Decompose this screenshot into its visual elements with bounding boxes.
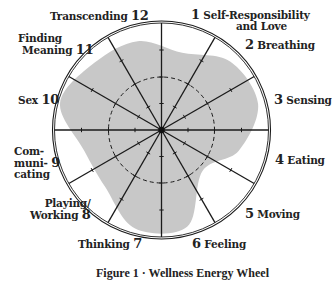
- segment-number-4: 4: [275, 152, 284, 167]
- segment-label-5: 5 Moving: [245, 208, 300, 220]
- figure-caption: Figure 1 · Wellness Energy Wheel: [96, 266, 269, 281]
- segment-number-11: 11: [76, 42, 94, 57]
- segment-label-1: 1 Self-Responsibility and Love: [191, 9, 310, 32]
- segment-text-5: Moving: [257, 208, 300, 220]
- segment-text-10: Sex: [18, 94, 38, 106]
- segment-text-12: Transcending: [50, 10, 128, 22]
- segment-label-6: 6 Feeling: [192, 238, 246, 250]
- segment-text-8b: Working: [24, 209, 78, 221]
- segment-label-12: Transcending 12: [50, 10, 149, 22]
- segment-number-2: 2: [245, 37, 254, 52]
- segment-label-10: Sex 10: [18, 94, 59, 106]
- segment-label-7: Thinking 7: [78, 238, 142, 250]
- segment-number-7: 7: [133, 236, 142, 251]
- segment-number-9: 9: [51, 155, 60, 170]
- segment-text-11a: Finding: [18, 32, 62, 44]
- segment-number-6: 6: [192, 236, 201, 251]
- segment-label-4: 4 Eating: [275, 154, 325, 166]
- segment-number-8: 8: [82, 207, 91, 222]
- segment-label-8: Playing/ Working 8: [24, 198, 91, 221]
- segment-text-6: Feeling: [204, 238, 246, 250]
- segment-text-11b: Meaning: [18, 44, 72, 56]
- segment-label-3: 3 Sensing: [274, 94, 332, 106]
- segment-text-3: Sensing: [286, 94, 331, 106]
- segment-text-9c: cating: [14, 168, 50, 180]
- segment-text-7: Thinking: [78, 238, 130, 250]
- segment-label-9: Com- muni- 9 cating: [14, 146, 60, 180]
- segment-text-2: Breathing: [257, 39, 315, 51]
- segment-label-2: 2 Breathing: [245, 39, 315, 51]
- segment-number-10: 10: [41, 92, 59, 107]
- segment-text-4: Eating: [287, 154, 324, 166]
- segment-number-5: 5: [245, 206, 254, 221]
- segment-number-3: 3: [274, 92, 283, 107]
- segment-label-11: Finding Meaning 11: [18, 33, 93, 56]
- segment-text-9a: Com-: [14, 145, 44, 157]
- segment-text-1b: and Love: [191, 20, 287, 32]
- center-hub: [158, 127, 164, 133]
- segment-number-12: 12: [131, 8, 149, 23]
